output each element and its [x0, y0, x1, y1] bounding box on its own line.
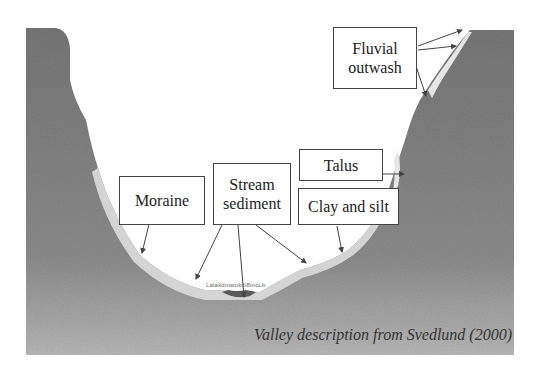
label-fluvial-outwash-line1: Fluvial — [352, 39, 397, 58]
figure-caption: Valley description from Svedlund (2000) — [254, 326, 512, 344]
label-stream-sediment: Stream sediment — [213, 163, 291, 225]
label-stream-sediment-line1: Stream — [229, 175, 274, 194]
label-moraine-text: Moraine — [135, 191, 189, 210]
label-clay-and-silt: Clay and silt — [298, 188, 399, 225]
label-clay-and-silt-text: Clay and silt — [308, 197, 389, 216]
valley-diagram: Fluvial outwash Moraine Stream sediment … — [0, 0, 536, 371]
label-talus-text: Talus — [324, 156, 358, 175]
small-illegible-text: Lalakdmwukdi8mcLb — [206, 282, 265, 288]
label-fluvial-outwash: Fluvial outwash — [333, 27, 417, 89]
label-stream-sediment-line2: sediment — [223, 194, 281, 213]
label-moraine: Moraine — [119, 176, 205, 225]
label-fluvial-outwash-line2: outwash — [348, 58, 401, 77]
label-talus: Talus — [299, 149, 383, 181]
